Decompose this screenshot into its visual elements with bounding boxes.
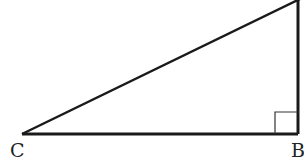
vertex-label-b: B (291, 139, 304, 161)
right-angle-marker (275, 112, 298, 134)
hypotenuse-ca (22, 0, 300, 134)
triangle-diagram: C B (0, 0, 304, 166)
vertex-label-c: C (10, 139, 25, 161)
